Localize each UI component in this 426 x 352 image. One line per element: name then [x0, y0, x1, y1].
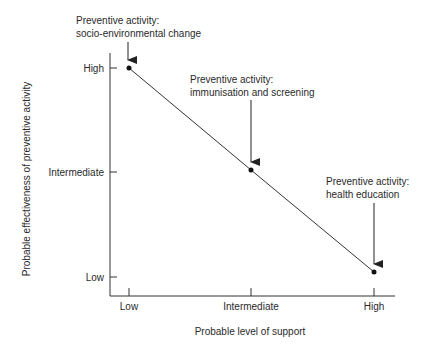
- x-tick-label-high: High: [364, 301, 385, 312]
- data-point-immunisation: [249, 168, 254, 173]
- x-tick-label-low: Low: [120, 301, 139, 312]
- x-tick-label-intermediate: Intermediate: [223, 301, 279, 312]
- y-tick-label-high: High: [83, 63, 104, 74]
- x-axis-title: Probable level of support: [195, 326, 306, 337]
- data-point-socio-environmental: [127, 66, 132, 71]
- data-point-health-education: [372, 270, 377, 275]
- y-tick-label-intermediate: Intermediate: [48, 167, 104, 178]
- annotation-2-line2: immunisation and screening: [190, 87, 315, 98]
- annotation-3-line2: health education: [326, 189, 399, 200]
- annotation-3-line1: Preventive activity:: [326, 176, 409, 187]
- y-axis-title: Probable effectiveness of preventive act…: [21, 82, 32, 276]
- annotation-2-line1: Preventive activity:: [190, 74, 273, 85]
- chart-canvas: High Intermediate Low Low Intermediate H…: [0, 0, 426, 352]
- annotation-1-line1: Preventive activity:: [76, 15, 159, 26]
- y-tick-label-low: Low: [86, 272, 105, 283]
- annotation-1-line2: socio-environmental change: [76, 28, 202, 39]
